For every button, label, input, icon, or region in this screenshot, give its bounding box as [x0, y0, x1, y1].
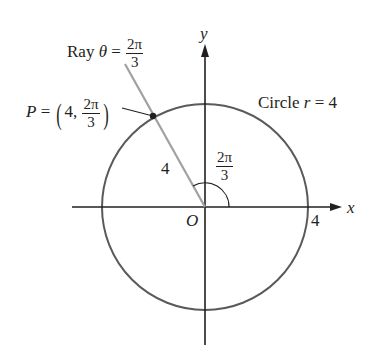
origin-label: O: [186, 212, 198, 229]
angle-fraction: 2π3: [216, 150, 233, 183]
circle-label-prefix: Circle: [258, 93, 304, 112]
point-theta-numerator: 2π: [82, 97, 99, 114]
point-label: P = (4, 2π3): [26, 97, 111, 130]
angle-numerator: 2π: [216, 150, 233, 167]
point-name: P: [26, 102, 36, 121]
segment-length-label: 4: [161, 160, 170, 177]
x-tick-label-4: 4: [311, 212, 320, 229]
angle-label: 2π3: [215, 150, 234, 183]
circle-label: Circle r = 4: [258, 94, 337, 111]
ray-angle-numerator: 2π: [126, 37, 143, 54]
polar-plot-canvas: [0, 0, 383, 355]
point-theta-denominator: 3: [87, 114, 95, 130]
left-paren: (: [57, 99, 63, 129]
ray-angle-denominator: 3: [131, 54, 139, 70]
point-theta-fraction: 2π3: [82, 97, 99, 130]
point-p: [150, 113, 156, 119]
point-r-value: 4,: [64, 102, 77, 121]
point-equals: =: [36, 102, 54, 121]
angle-denominator: 3: [221, 167, 229, 183]
ray-angle-fraction: 2π3: [126, 37, 143, 70]
right-paren: ): [103, 99, 109, 129]
point-leader-line: [122, 108, 153, 116]
ray-label-theta: θ: [99, 42, 107, 61]
ray-label-equals: =: [107, 42, 125, 61]
x-axis-arrow-icon: [330, 203, 342, 211]
ray-label-prefix: Ray: [67, 42, 99, 61]
y-axis-arrow-icon: [201, 44, 209, 57]
x-axis-label: x: [347, 199, 355, 216]
circle-label-value: = 4: [310, 93, 337, 112]
ray-label: Ray θ = 2π3: [67, 37, 144, 70]
y-axis-label: y: [200, 25, 208, 42]
